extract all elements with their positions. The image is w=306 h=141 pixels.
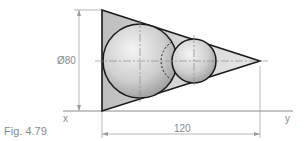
diameter-arrow-bottom <box>77 105 81 111</box>
length-arrow-right <box>254 132 260 136</box>
x-axis-label: x <box>63 114 68 124</box>
length-arrow-left <box>102 132 108 136</box>
y-axis-label: y <box>285 114 290 124</box>
diameter-arrow-top <box>77 10 81 16</box>
figure-caption: Fig. 4.79 <box>4 126 47 137</box>
length-label: 120 <box>174 124 191 134</box>
diameter-label: Ø80 <box>57 56 76 66</box>
cone-spheres-drawing <box>0 0 306 141</box>
